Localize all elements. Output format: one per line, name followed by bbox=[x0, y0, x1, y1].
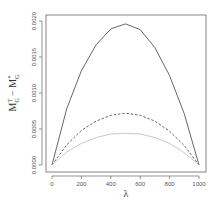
svg-text:MGT − MG*: MGT − MG* bbox=[7, 74, 20, 111]
x-axis: 02004006008001000 bbox=[50, 176, 206, 187]
y-tick-label: 0.0005 bbox=[31, 119, 37, 138]
y-tick-label: 0.0015 bbox=[31, 47, 37, 66]
x-tick-label: 800 bbox=[165, 181, 176, 187]
x-tick-label: 0 bbox=[50, 181, 54, 187]
y-tick-label: 0.0020 bbox=[31, 11, 37, 30]
plot-box bbox=[46, 15, 206, 172]
x-tick-label: 1000 bbox=[192, 181, 206, 187]
series-solid-line bbox=[52, 24, 199, 165]
y-tick-label: 0.0000 bbox=[31, 155, 37, 174]
y-axis-title: MGT − MG* bbox=[7, 74, 20, 111]
x-axis-title: λ bbox=[124, 188, 129, 199]
y-tick-label: 0.0010 bbox=[31, 83, 37, 102]
x-tick-label: 600 bbox=[135, 181, 146, 187]
x-tick-label: 200 bbox=[76, 181, 87, 187]
y-axis: 0.00000.00050.00100.00150.0020 bbox=[31, 11, 42, 174]
x-tick-label: 400 bbox=[106, 181, 117, 187]
chart: 0.00000.00050.00100.00150.0020 020040060… bbox=[0, 0, 218, 207]
series-dashed-line bbox=[52, 113, 199, 165]
series-lines bbox=[52, 24, 199, 165]
